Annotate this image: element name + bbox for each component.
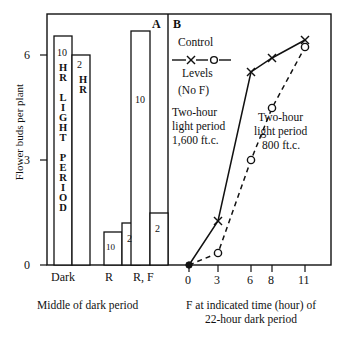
panel-b-x-tick-0: 0 xyxy=(185,274,191,286)
panel-b-x-tick-8: 8 xyxy=(268,274,274,286)
x-tick-rf: R, F xyxy=(133,271,154,283)
panel-a-label: A xyxy=(152,18,161,30)
x-tick-dark: Dark xyxy=(51,271,75,283)
figure-container: Flower buds per plant 0 3 6 A B 10 2 10 … xyxy=(0,0,346,337)
panel-b-x-tick-3: 3 xyxy=(214,274,220,286)
annotation-800-line3: 800 ft.c. xyxy=(262,140,300,152)
bar-label-dark-10: 10 xyxy=(57,48,67,58)
text-layer: Flower buds per plant 0 3 6 A B 10 2 10 … xyxy=(0,0,346,337)
panel-b-x-axis-label-line1: F at indicated time (hour) of xyxy=(186,300,316,312)
bar-label-rf-2: 2 xyxy=(155,224,160,234)
y-tick-3: 3 xyxy=(24,154,30,166)
bar-vertical-text-2hr: HR xyxy=(77,74,88,94)
y-axis-label: Flower buds per plant xyxy=(13,77,25,187)
panel-b-x-tick-11: 11 xyxy=(298,274,310,286)
y-tick-0: 0 xyxy=(24,259,30,271)
annotation-1600-line1: Two-hour xyxy=(172,107,217,119)
panel-b-label: B xyxy=(173,18,181,30)
legend-subtitle: Levels xyxy=(182,68,213,80)
panel-b-x-axis-label-line2: 22-hour dark period xyxy=(205,314,297,326)
x-tick-r: R xyxy=(105,271,113,283)
y-tick-6: 6 xyxy=(24,49,30,61)
annotation-1600-line3: 1,600 ft.c. xyxy=(172,135,219,147)
panel-a-x-axis-label: Middle of dark period xyxy=(37,300,138,312)
annotation-1600-line2: light period xyxy=(172,121,225,133)
bar-label-rf-10: 10 xyxy=(135,95,145,105)
legend-note: (No F) xyxy=(178,85,209,97)
legend-title: Control xyxy=(178,37,213,49)
panel-b-x-tick-6: 6 xyxy=(247,274,253,286)
bar-vertical-text-10hr: HR LIGHT PERIOD xyxy=(57,62,68,212)
bar-label-r-10: 10 xyxy=(106,243,115,252)
annotation-800-line1: Two-hour xyxy=(258,112,303,124)
bar-label-r-2: 2 xyxy=(127,234,132,244)
bar-label-dark-2: 2 xyxy=(77,60,82,70)
annotation-800-line2: light period xyxy=(254,126,307,138)
